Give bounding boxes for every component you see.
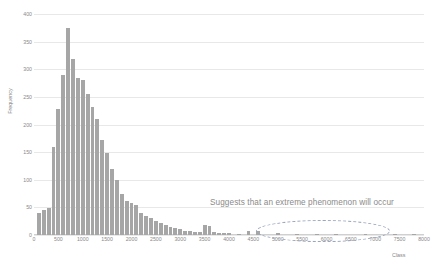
histogram-bar (159, 223, 163, 235)
y-axis-tick-label: 350 (8, 39, 32, 45)
annotation-ellipse-icon (256, 220, 390, 242)
y-axis-tick-label: 50 (8, 204, 32, 210)
histogram-bar (217, 233, 221, 235)
histogram-bar (139, 213, 143, 235)
histogram-bar (71, 59, 75, 235)
histogram-bar (37, 213, 41, 235)
x-axis-tick-label: 3000 (174, 236, 186, 243)
histogram-bar (110, 169, 114, 235)
histogram-bar (164, 225, 168, 235)
histogram-bar (130, 203, 134, 235)
histogram-bar (115, 180, 119, 235)
histogram-bar (52, 147, 56, 235)
histogram-bar (173, 228, 177, 235)
histogram-bar (393, 234, 397, 235)
x-axis-tick-label: 3500 (199, 236, 211, 243)
histogram-bar (144, 216, 148, 235)
y-axis-tick-label: 0 (8, 232, 32, 238)
x-axis-tick-label: 4000 (223, 236, 235, 243)
histogram-bar (208, 226, 212, 235)
y-axis-tick-label: 150 (8, 149, 32, 155)
histogram-bar (227, 233, 231, 235)
histogram-bar (198, 232, 202, 235)
x-axis-tick-label: 8000 (418, 236, 430, 243)
histogram-bar (212, 232, 216, 235)
histogram-bar (120, 194, 124, 235)
histogram-bar (178, 229, 182, 235)
histogram-bar (56, 109, 60, 235)
histogram-bar (134, 205, 138, 235)
histogram-bar (169, 227, 173, 235)
x-axis-tick-label: 2000 (126, 236, 138, 243)
x-axis-tick-label: 7500 (394, 236, 406, 243)
y-axis-tick-label: 100 (8, 177, 32, 183)
histogram-bar (105, 153, 109, 235)
x-axis-tick-label: 1000 (77, 236, 89, 243)
annotation-label: Suggests that an extreme phenomenon will… (210, 198, 394, 207)
histogram-bar (42, 210, 46, 235)
histogram-bar (193, 232, 197, 235)
histogram-bar (247, 231, 251, 235)
histogram-bar (412, 234, 416, 235)
histogram-bar (237, 234, 241, 235)
y-axis-tick-label: 400 (8, 11, 32, 17)
y-axis-tick-label: 200 (8, 122, 32, 128)
histogram-bar (81, 80, 85, 235)
x-axis-tick-label: 1500 (101, 236, 113, 243)
histogram-bar (149, 218, 153, 235)
histogram-bar (100, 140, 104, 235)
y-axis-tick-label: 250 (8, 94, 32, 100)
histogram-bar (76, 78, 80, 235)
histogram-bar (91, 107, 95, 235)
histogram-bar (61, 75, 65, 235)
histogram-bar (95, 119, 99, 235)
y-axis: 050100150200250300350400 (4, 14, 32, 235)
histogram-bar (154, 221, 158, 235)
x-axis-title: Class (392, 252, 405, 258)
x-axis-tick-label: 0 (33, 236, 36, 243)
x-axis-tick-label: 500 (54, 236, 63, 243)
histogram-bar (47, 208, 51, 235)
histogram-bar (222, 233, 226, 235)
x-axis-tick-label: 2500 (150, 236, 162, 243)
x-axis-tick-label: 4500 (248, 236, 260, 243)
histogram-bar (86, 94, 90, 235)
histogram-bar (188, 231, 192, 235)
histogram-bar (183, 231, 187, 235)
y-axis-tick-label: 300 (8, 66, 32, 72)
histogram-bar (125, 201, 129, 235)
histogram-chart: Frequency 050100150200250300350400 05001… (0, 0, 437, 272)
histogram-bar (203, 225, 207, 235)
histogram-bar (66, 28, 70, 235)
